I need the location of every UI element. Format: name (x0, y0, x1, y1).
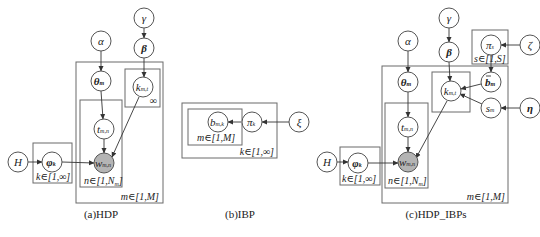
svg-text:H: H (13, 156, 23, 168)
node-eta: η (520, 98, 540, 118)
edge-phi-w (62, 162, 94, 163)
graphical-models-figure: α γ β θm km,t tm,n wm,n φk H m∈[1,M] ∞ n… (0, 0, 540, 237)
node-phi: φk (348, 153, 368, 173)
plate-n-label: n∈[1,Nm] (388, 175, 427, 187)
edge-s-k (460, 94, 482, 104)
panel-ibp: bm,k πk ξ m∈[1,M] k∈[1,∞] (b)IBP (182, 103, 309, 221)
plate-k-label: k∈[1,∞] (240, 146, 274, 157)
svg-text:α: α (98, 35, 104, 47)
plate-m-label: m∈[1,M] (121, 191, 159, 202)
node-H: H (317, 152, 337, 172)
caption-hdp: (a)HDP (84, 208, 118, 221)
node-zeta: ζ (520, 35, 540, 55)
edge-beta-k (449, 62, 450, 81)
node-k: km,t (441, 81, 461, 101)
node-xi: ξ (289, 112, 309, 132)
node-b: bm,k (208, 112, 228, 132)
node-t: tm,n (398, 117, 418, 137)
node-t: tm,n (94, 119, 114, 139)
node-pi: πk (242, 112, 262, 132)
node-pi: πs (481, 35, 501, 55)
node-theta: θm (91, 71, 111, 91)
svg-text:β: β (445, 46, 452, 58)
node-phi: φk (42, 152, 62, 172)
plate-m-label: m∈[1,M] (467, 191, 505, 202)
caption-ibp: (b)IBP (225, 208, 255, 221)
svg-text:η: η (527, 102, 533, 114)
svg-text:β: β (140, 42, 147, 54)
plate-phi-label: k∈[1,∞] (36, 171, 70, 182)
panel-hdp-ibps: H φk α θm tm,n wm,n γ β km,t πs ζ bm sm … (317, 8, 540, 221)
panel-hdp: α γ β θm km,t tm,n wm,n φk H m∈[1,M] ∞ n… (8, 8, 163, 221)
node-w-observed: wm,n (398, 152, 418, 172)
node-H: H (8, 152, 28, 172)
node-alpha: α (91, 31, 111, 51)
svg-text:γ: γ (142, 12, 147, 24)
node-gamma: γ (439, 8, 459, 28)
node-alpha: α (398, 31, 418, 51)
node-w-observed: wm,n (94, 153, 114, 173)
svg-text:α: α (405, 35, 411, 47)
plate-n-label: n∈[1,Nm] (84, 175, 123, 187)
edge-b-k (461, 84, 481, 89)
node-theta: θm (398, 72, 418, 92)
node-s: sm (481, 98, 501, 118)
node-beta: β (439, 42, 459, 62)
plate-phi-label: k∈[1,∞] (342, 173, 376, 184)
plate-n (80, 100, 122, 187)
plate-s-label: s∈[1,S] (474, 53, 506, 64)
svg-text:ξ: ξ (297, 116, 302, 129)
svg-text:H: H (322, 156, 332, 168)
node-b: bm (481, 72, 501, 92)
node-gamma: γ (134, 8, 154, 28)
node-k: km,t (133, 77, 153, 97)
edge-theta-t (101, 91, 103, 119)
plate-k-label: ∞ (150, 95, 157, 106)
plate-m-label: m∈[1,M] (197, 132, 235, 143)
node-beta: β (134, 38, 154, 58)
caption-hdp-ibps: (c)HDP_IBPs (405, 208, 466, 221)
svg-text:γ: γ (447, 12, 452, 24)
